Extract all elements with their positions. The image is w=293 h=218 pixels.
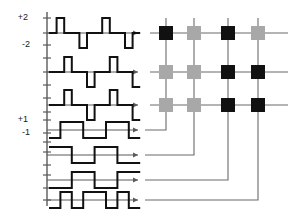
matrix-cell-r3-c1[interactable]	[159, 98, 173, 112]
axis-label-minus-one: -1	[22, 127, 30, 137]
matrix-cell-r2-c2[interactable]	[187, 65, 201, 79]
matrix-cell-r3-c2[interactable]	[187, 98, 201, 112]
axis-label-plus-two: +2	[18, 12, 28, 22]
matrix-cell-r1-c3[interactable]	[221, 26, 235, 40]
waveform-matrix-diagram: +2-2+1-1	[0, 0, 293, 218]
matrix-cell-r3-c4[interactable]	[251, 98, 265, 112]
matrix-cell-r1-c2[interactable]	[187, 26, 201, 40]
matrix-cell-r3-c3[interactable]	[221, 98, 235, 112]
axis-label-minus-two: -2	[22, 39, 30, 49]
matrix-cell-r2-c4[interactable]	[251, 65, 265, 79]
matrix-cell-r1-c4[interactable]	[251, 26, 265, 40]
figure-root: +2-2+1-1	[0, 0, 293, 218]
matrix-cell-r1-c1[interactable]	[159, 26, 173, 40]
axis-label-plus-one: +1	[18, 114, 28, 124]
matrix-cell-r2-c3[interactable]	[221, 65, 235, 79]
matrix-cell-r2-c1[interactable]	[159, 65, 173, 79]
